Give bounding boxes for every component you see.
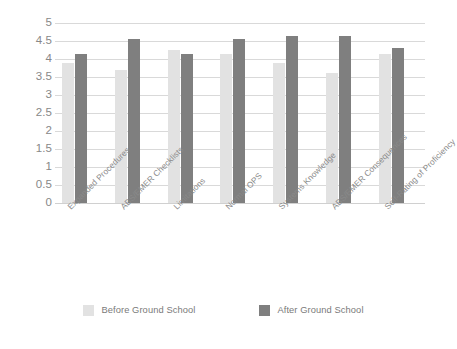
legend-item[interactable]: Before Ground School [83,305,195,316]
y-axis-tick-label: 3 [4,89,52,101]
y-axis-tick-label: 5 [4,17,52,29]
y-axis-tick-label: 0 [4,197,52,209]
bar-group [115,23,140,203]
bar-group [168,23,193,203]
bar [233,39,245,203]
bar-group [379,23,404,203]
legend-swatch-icon [83,305,94,316]
bar [181,54,193,203]
legend-swatch-icon [259,305,270,316]
legend-label: After Ground School [277,305,363,316]
bar [273,63,285,203]
y-axis-tick-label: 2.5 [4,107,52,119]
bar [75,54,87,203]
y-axis-tick-label: 2 [4,125,52,137]
legend-item[interactable]: After Ground School [259,305,363,316]
bar [339,36,351,203]
bar-group [326,23,351,203]
y-axis-labels: 54.543.532.521.510.50 [0,0,52,349]
bar [168,50,180,203]
bar [392,48,404,203]
bar [62,63,74,203]
y-axis-tick-label: 3.5 [4,71,52,83]
bar [115,70,127,203]
y-axis-tick-label: 1.5 [4,143,52,155]
y-axis-tick-label: 0.5 [4,179,52,191]
x-axis-labels: Expanded ProceduresABS/EMER ChecklistsLi… [55,205,447,295]
legend-label: Before Ground School [101,305,195,316]
y-axis-tick-label: 1 [4,161,52,173]
bar [286,36,298,203]
bar-group [273,23,298,203]
bar-group [220,23,245,203]
gridline [55,203,425,204]
bar [326,73,338,203]
bar [220,54,232,203]
y-axis-tick-label: 4.5 [4,35,52,47]
y-axis-tick-label: 4 [4,53,52,65]
chart-legend: Before Ground SchoolAfter Ground School [0,305,447,316]
bar [379,54,391,203]
bar-group [62,23,87,203]
bar [128,39,140,203]
